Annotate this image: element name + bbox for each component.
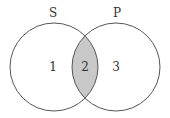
venn-diagram: S P 1 2 3 bbox=[0, 0, 170, 118]
region-label-2: 2 bbox=[81, 60, 89, 74]
set-label-p: P bbox=[113, 6, 121, 20]
region-label-3: 3 bbox=[112, 60, 120, 74]
set-label-s: S bbox=[49, 6, 57, 20]
region-label-1: 1 bbox=[49, 60, 57, 74]
